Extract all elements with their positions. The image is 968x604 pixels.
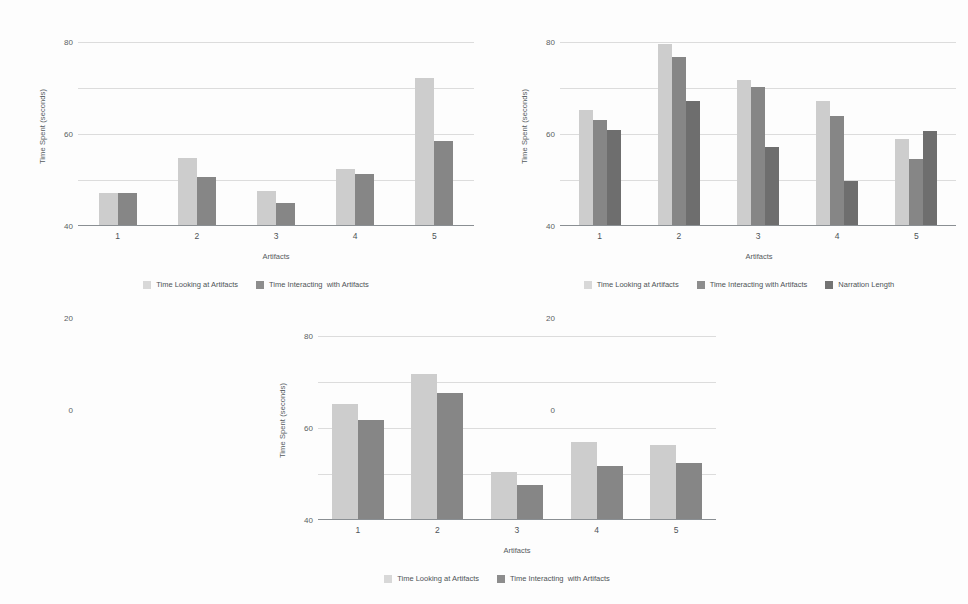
bar[interactable]: [597, 466, 623, 519]
bar[interactable]: [579, 110, 593, 225]
legend-label: Time Looking at Artifacts: [597, 280, 679, 289]
bar-group: 3: [477, 335, 557, 519]
bar-group: 1: [318, 335, 398, 519]
y-axis-tick: 0: [69, 406, 73, 415]
legend-label: Time Interacting with Artifacts: [269, 280, 369, 289]
bar[interactable]: [491, 472, 517, 519]
bar[interactable]: [99, 193, 118, 225]
bar[interactable]: [197, 177, 216, 225]
plot-area: 020406080 12345: [78, 42, 474, 226]
bar[interactable]: [517, 485, 543, 520]
bar[interactable]: [355, 174, 374, 225]
bar[interactable]: [411, 374, 437, 519]
x-axis-tick: 4: [798, 231, 877, 241]
x-axis-tick: 1: [78, 231, 157, 241]
y-axis-label: Time Spent (seconds): [276, 322, 290, 518]
chart-panel-bottom: Time Spent (seconds) 020406080 12345 Art…: [278, 322, 716, 602]
bar[interactable]: [672, 57, 686, 225]
y-axis-tick: 80: [64, 38, 73, 47]
bar-group: 3: [236, 41, 315, 225]
plot-area: 020406080 12345: [560, 42, 956, 226]
x-axis-tick: 3: [236, 231, 315, 241]
bar[interactable]: [358, 420, 384, 519]
bar-group: 1: [560, 41, 639, 225]
bar[interactable]: [437, 393, 463, 520]
y-axis-tick: 60: [64, 130, 73, 139]
bar[interactable]: [650, 445, 676, 519]
y-axis-label: Time Spent (seconds): [36, 28, 50, 224]
legend-label: Time Interacting with Artifacts: [710, 280, 808, 289]
legend: Time Looking at ArtifactsTime Interactin…: [278, 574, 716, 583]
legend: Time Looking at ArtifactsTime Interactin…: [38, 280, 474, 289]
x-axis-tick: 5: [395, 231, 474, 241]
bar[interactable]: [571, 442, 597, 519]
legend-label: Time Interacting with Artifacts: [510, 574, 610, 583]
x-axis-tick: 5: [877, 231, 956, 241]
bar-group: 5: [395, 41, 474, 225]
legend-label: Time Looking at Artifacts: [397, 574, 479, 583]
y-axis-tick: 40: [64, 222, 73, 231]
bar[interactable]: [593, 120, 607, 225]
bar-groups: 12345: [560, 41, 956, 225]
bar[interactable]: [118, 193, 137, 225]
bar-groups: 12345: [318, 335, 716, 519]
legend-swatch-icon: [825, 281, 833, 289]
bar[interactable]: [895, 139, 909, 225]
legend-swatch-icon: [143, 281, 151, 289]
y-axis-label: Time Spent (seconds): [518, 28, 532, 224]
legend-item[interactable]: Time Looking at Artifacts: [584, 280, 679, 289]
legend-label: Time Looking at Artifacts: [156, 280, 238, 289]
bar[interactable]: [415, 78, 434, 225]
bar[interactable]: [816, 101, 830, 225]
legend-item[interactable]: Narration Length: [825, 280, 894, 289]
x-axis-tick: 2: [639, 231, 718, 241]
legend: Time Looking at ArtifactsTime Interactin…: [520, 280, 958, 289]
bar[interactable]: [844, 181, 858, 225]
bar-group: 1: [78, 41, 157, 225]
bar[interactable]: [178, 158, 197, 225]
x-axis-tick: 3: [477, 525, 557, 535]
bar[interactable]: [676, 463, 702, 519]
x-axis-tick: 1: [318, 525, 398, 535]
bar[interactable]: [276, 203, 295, 225]
legend-item[interactable]: Time Interacting with Artifacts: [497, 574, 610, 583]
x-axis-label: Artifacts: [78, 252, 474, 261]
bar[interactable]: [830, 116, 844, 225]
y-axis-tick: 60: [546, 130, 555, 139]
bar-group: 2: [157, 41, 236, 225]
y-axis-tick: 80: [546, 38, 555, 47]
bar[interactable]: [607, 130, 621, 225]
bar[interactable]: [434, 141, 453, 225]
bar[interactable]: [923, 131, 937, 225]
legend-swatch-icon: [497, 575, 505, 583]
bar[interactable]: [332, 404, 358, 519]
bar-group: 2: [398, 335, 478, 519]
bar-group: 4: [798, 41, 877, 225]
bar[interactable]: [737, 80, 751, 225]
y-axis-tick: 20: [64, 314, 73, 323]
chart-panel-top-left: Time Spent (seconds) 020406080 12345 Art…: [38, 28, 474, 308]
bar[interactable]: [658, 44, 672, 225]
x-axis-tick: 2: [157, 231, 236, 241]
bar[interactable]: [909, 159, 923, 225]
bar[interactable]: [751, 87, 765, 225]
figure-canvas: Time Spent (seconds) 020406080 12345 Art…: [0, 0, 968, 604]
gridline: 0: [318, 520, 716, 521]
bar-group: 5: [877, 41, 956, 225]
legend-swatch-icon: [584, 281, 592, 289]
x-axis-label: Artifacts: [560, 252, 958, 261]
legend-item[interactable]: Time Looking at Artifacts: [143, 280, 238, 289]
gridline: 0: [560, 226, 956, 227]
chart-panel-top-right: Time Spent (seconds) 020406080 12345 Art…: [520, 28, 958, 308]
bar[interactable]: [686, 101, 700, 225]
bar-group: 2: [639, 41, 718, 225]
legend-swatch-icon: [256, 281, 264, 289]
bar[interactable]: [765, 147, 779, 225]
legend-item[interactable]: Time Looking at Artifacts: [384, 574, 479, 583]
legend-item[interactable]: Time Interacting with Artifacts: [256, 280, 369, 289]
legend-item[interactable]: Time Interacting with Artifacts: [697, 280, 808, 289]
bar[interactable]: [257, 191, 276, 226]
y-axis-tick: 40: [546, 222, 555, 231]
x-axis-tick: 5: [636, 525, 716, 535]
bar[interactable]: [336, 169, 355, 225]
